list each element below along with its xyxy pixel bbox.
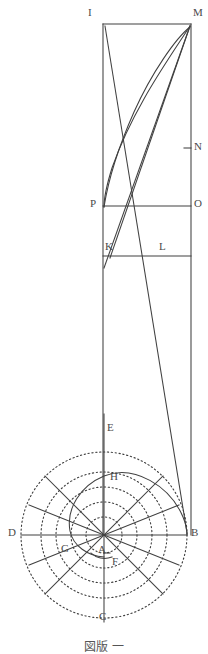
- figure-caption: 図版 一: [0, 637, 208, 654]
- curve-M-inner: [104, 27, 190, 207]
- point-label-L: L: [159, 241, 166, 252]
- point-label-E: E: [107, 422, 114, 433]
- chord-M-to-P: [104, 26, 190, 268]
- point-label-I: I: [88, 7, 92, 18]
- point-label-P: P: [90, 198, 96, 209]
- point-label-C: C: [99, 611, 106, 622]
- point-label-F: F: [112, 556, 118, 567]
- point-label-K: K: [105, 241, 113, 252]
- chord-I-to-B: [105, 26, 187, 533]
- point-label-D: D: [8, 527, 16, 538]
- point-label-A: A: [98, 544, 106, 555]
- point-label-N: N: [194, 141, 202, 152]
- point-label-O: O: [194, 198, 202, 209]
- point-label-H: H: [110, 471, 118, 482]
- curve-M-to-P: [104, 26, 190, 207]
- point-label-B: B: [191, 527, 198, 538]
- point-label-G: G: [61, 543, 69, 554]
- point-label-M: M: [193, 7, 203, 18]
